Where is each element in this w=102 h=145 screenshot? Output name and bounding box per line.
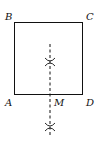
vertex-label-c: C — [86, 11, 94, 22]
square-diagram: B C A D M — [0, 0, 102, 145]
vertex-label-d: D — [85, 97, 94, 108]
square-abcd — [15, 23, 83, 95]
vertex-label-a: A — [4, 97, 12, 108]
vertex-label-b: B — [4, 11, 12, 22]
midpoint-label-m: M — [53, 97, 65, 108]
